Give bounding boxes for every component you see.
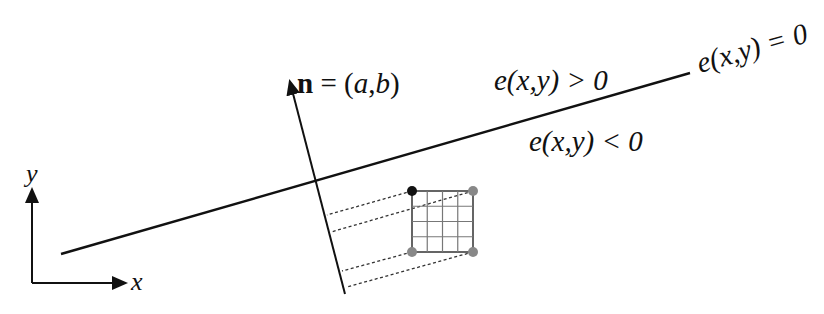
edge-line-label: e(x,y) = 0 — [693, 17, 812, 80]
corner-dot-top-left — [407, 186, 417, 196]
normal-n: n — [297, 67, 313, 99]
projection-line-top-left — [327, 191, 412, 215]
positive-region-label: e(x,y) > 0 — [494, 64, 608, 97]
projection-lines — [327, 191, 473, 287]
normal-b: b — [375, 67, 390, 99]
normal-close: ) — [390, 67, 400, 100]
axis-y-label: y — [23, 159, 38, 188]
projection-line-bottom-right — [347, 252, 473, 287]
negative-region-label: e(x,y) < 0 — [529, 125, 643, 158]
normal-a: a — [354, 67, 369, 99]
axis-x-label: x — [130, 267, 143, 296]
projection-line-bottom-left — [342, 252, 412, 271]
coordinate-axes: y x — [23, 159, 143, 296]
corner-dot-bottom-right — [468, 247, 478, 257]
edge-line — [61, 73, 690, 254]
normal-vector-label: n = (a,b) — [297, 67, 400, 100]
pixel-grid — [412, 191, 473, 252]
projection-line-top-right — [331, 191, 473, 232]
edge-function-diagram: y x n = (a,b) e(x,y) > 0 e(x,y) < 0 e(x,… — [0, 0, 824, 314]
normal-eq: = ( — [313, 67, 354, 100]
corner-dot-bottom-left — [407, 247, 417, 257]
normal-vector-arrow — [290, 82, 345, 294]
normal-comma: , — [368, 67, 375, 99]
corner-dot-top-right — [468, 186, 478, 196]
